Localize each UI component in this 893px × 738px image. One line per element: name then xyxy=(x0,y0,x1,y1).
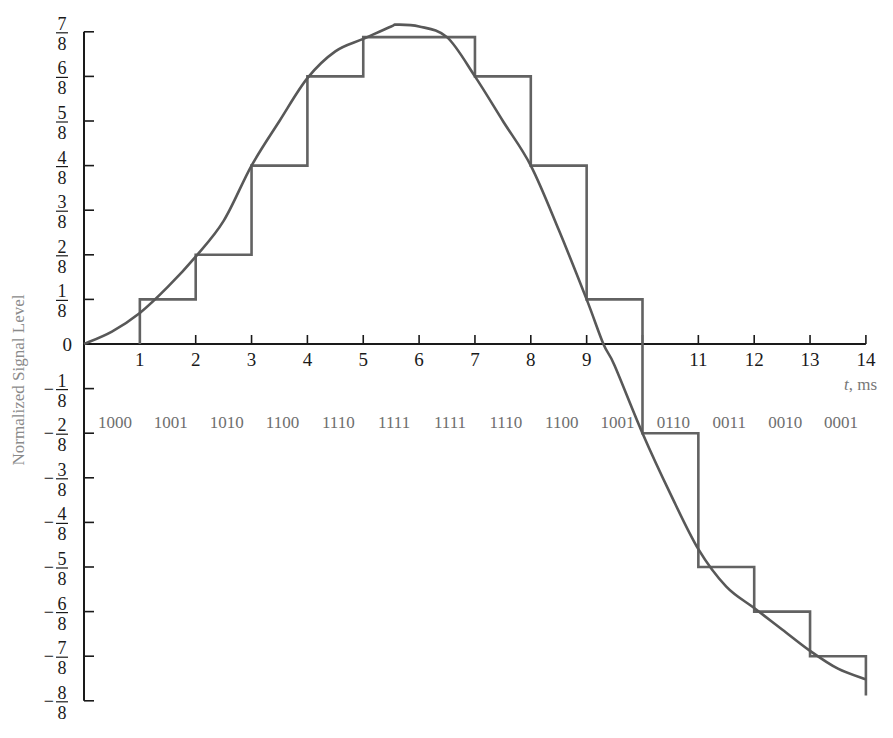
y-tick: 58 xyxy=(56,103,94,143)
x-tick: 3 xyxy=(247,335,257,370)
y-tick-denominator: 8 xyxy=(58,168,67,188)
y-tick-denominator: 8 xyxy=(58,614,67,634)
y-tick: 38 xyxy=(56,192,94,232)
y-tick-numerator: 3 xyxy=(58,460,67,480)
x-tick-label: 8 xyxy=(526,349,536,370)
x-tick: 7 xyxy=(470,335,480,370)
x-tick-label: 11 xyxy=(689,349,707,370)
y-tick: 48 xyxy=(56,148,94,188)
x-tick: 14 xyxy=(856,335,876,370)
chart-canvas: Normalized Signal Level 7868584838281801… xyxy=(0,0,893,738)
y-tick-label: 0 xyxy=(63,334,73,355)
y-tick-minus-sign: − xyxy=(44,646,54,666)
y-tick-minus-sign: − xyxy=(44,557,54,577)
binary-code-label: 1110 xyxy=(322,413,355,432)
x-tick-label: 2 xyxy=(191,349,201,370)
y-tick: 48− xyxy=(44,504,94,544)
x-tick-label: 5 xyxy=(359,349,369,370)
y-tick-numerator: 7 xyxy=(58,14,67,34)
x-tick: 9 xyxy=(582,335,592,370)
y-tick: 68 xyxy=(56,58,94,98)
binary-code-label: 0110 xyxy=(657,413,690,432)
y-tick: 38− xyxy=(44,460,94,500)
binary-code-label: 1111 xyxy=(378,413,410,432)
x-tick: 12 xyxy=(745,335,764,370)
x-tick: 8 xyxy=(526,335,536,370)
y-tick-minus-sign: − xyxy=(44,468,54,488)
x-tick: 2 xyxy=(191,335,201,370)
binary-code-label: 0001 xyxy=(824,413,858,432)
y-tick-numerator: 3 xyxy=(58,192,67,212)
x-tick-label: 7 xyxy=(470,349,480,370)
y-tick-minus-sign: − xyxy=(44,512,54,532)
binary-code-label: 1001 xyxy=(601,413,635,432)
y-tick-denominator: 8 xyxy=(58,391,67,411)
y-tick-numerator: 1 xyxy=(58,281,67,301)
quantization-chart: Normalized Signal Level 7868584838281801… xyxy=(0,0,893,738)
y-tick-denominator: 8 xyxy=(58,658,67,678)
x-tick-label: 9 xyxy=(582,349,592,370)
y-axis-label: Normalized Signal Level xyxy=(9,294,28,465)
x-tick: 13 xyxy=(801,335,820,370)
x-tick: 6 xyxy=(414,335,424,370)
x-tick: 11 xyxy=(689,335,707,370)
y-tick-denominator: 8 xyxy=(58,34,67,54)
x-tick-label: 6 xyxy=(414,349,424,370)
y-tick: 18− xyxy=(44,371,94,411)
binary-code-label: 1010 xyxy=(210,413,244,432)
y-tick-denominator: 8 xyxy=(58,480,67,500)
binary-code-label: 1110 xyxy=(490,413,523,432)
y-tick-minus-sign: − xyxy=(44,602,54,622)
y-tick: 28 xyxy=(56,237,94,277)
x-axis-ticks: 12345678911121314 xyxy=(135,335,876,370)
binary-code-label: 1100 xyxy=(545,413,578,432)
binary-code-label: 0011 xyxy=(713,413,746,432)
y-tick-denominator: 8 xyxy=(58,569,67,589)
y-tick-numerator: 2 xyxy=(58,237,67,257)
y-tick-denominator: 8 xyxy=(58,78,67,98)
y-tick: 78− xyxy=(44,638,94,678)
y-tick: 68− xyxy=(44,594,94,634)
y-axis-title: Normalized Signal Level xyxy=(9,294,28,465)
binary-code-label: 0010 xyxy=(768,413,802,432)
y-tick: 18 xyxy=(56,281,94,321)
x-tick-label: 12 xyxy=(745,349,764,370)
y-tick-minus-sign: − xyxy=(44,379,54,399)
y-tick-minus-sign: − xyxy=(44,423,54,443)
x-tick-label: 4 xyxy=(303,349,313,370)
binary-code-label: 1111 xyxy=(434,413,466,432)
y-tick-numerator: 7 xyxy=(58,638,67,658)
binary-code-label: 1100 xyxy=(266,413,299,432)
y-tick-denominator: 8 xyxy=(58,123,67,143)
x-tick-label: 1 xyxy=(135,349,145,370)
y-tick-numerator: 2 xyxy=(58,415,67,435)
y-tick-numerator: 4 xyxy=(58,148,67,168)
x-tick-label: 3 xyxy=(247,349,257,370)
y-tick: 28− xyxy=(44,415,94,455)
y-tick: 58− xyxy=(44,549,94,589)
y-tick-denominator: 8 xyxy=(58,257,67,277)
y-tick-numerator: 8 xyxy=(58,683,67,703)
x-tick-label: 13 xyxy=(801,349,820,370)
y-tick: 88− xyxy=(44,683,94,723)
y-tick-numerator: 6 xyxy=(58,594,67,614)
y-axis-ticks: 78685848382818018−28−38−48−58−68−78−88− xyxy=(44,14,94,723)
y-tick-minus-sign: − xyxy=(44,691,54,711)
y-tick-denominator: 8 xyxy=(58,301,67,321)
y-tick-numerator: 5 xyxy=(58,549,67,569)
y-tick-numerator: 6 xyxy=(58,58,67,78)
binary-code-label: 1000 xyxy=(98,413,132,432)
x-tick: 4 xyxy=(303,335,313,370)
y-tick: 78 xyxy=(56,14,94,54)
x-axis-title: t, ms xyxy=(844,375,877,394)
y-tick-numerator: 5 xyxy=(58,103,67,123)
y-tick-numerator: 4 xyxy=(58,504,67,524)
x-tick-label: 14 xyxy=(856,349,876,370)
y-tick-denominator: 8 xyxy=(58,703,67,723)
binary-code-label: 1001 xyxy=(154,413,188,432)
binary-code-labels: 1000100110101100111011111111111011001001… xyxy=(98,413,858,432)
y-tick-denominator: 8 xyxy=(58,435,67,455)
x-tick: 5 xyxy=(359,335,369,370)
y-tick-denominator: 8 xyxy=(58,524,67,544)
y-tick-numerator: 1 xyxy=(58,371,67,391)
